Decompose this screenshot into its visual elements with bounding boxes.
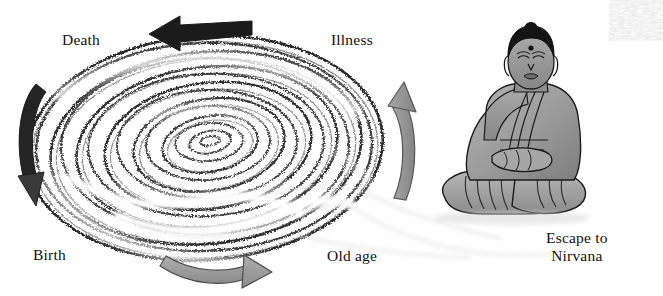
urna-dot [528, 45, 533, 50]
left-arrow [18, 84, 46, 206]
escape-line-1: Escape to [546, 229, 608, 247]
label-death: Death [62, 31, 100, 49]
escape-line-2: Nirvana [546, 247, 608, 265]
seated-buddha [434, 22, 590, 225]
right-arrow [388, 82, 416, 200]
label-escape-to-nirvana: Escape to Nirvana [546, 229, 608, 266]
label-illness: Illness [331, 31, 373, 49]
label-birth: Birth [33, 246, 66, 264]
buddha-head [504, 22, 557, 92]
buddha-torso [467, 84, 581, 180]
label-old-age: Old age [327, 247, 377, 265]
diagram-canvas: Death Illness Birth Old age Escape to Ni… [0, 0, 663, 296]
corner-grain-artifact [614, 0, 663, 34]
